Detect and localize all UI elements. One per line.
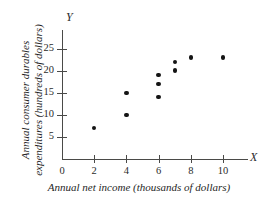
y-axis-title: Annual consumer durables expenditures (h…	[19, 15, 45, 185]
y-tick	[57, 137, 67, 138]
data-point	[156, 95, 160, 99]
x-tick-label: 4	[116, 165, 136, 176]
y-tick	[57, 93, 67, 94]
x-tick-label: 0	[52, 165, 72, 176]
x-tick-label: 8	[181, 165, 201, 176]
data-point	[173, 68, 177, 72]
data-point	[156, 82, 160, 86]
data-point	[189, 55, 193, 59]
data-point	[156, 73, 160, 77]
y-tick	[57, 49, 67, 50]
data-point	[221, 55, 225, 59]
x-axis-letter: X	[250, 150, 257, 165]
x-tick	[191, 155, 192, 163]
data-point	[124, 113, 128, 117]
x-tick-label: 2	[84, 165, 104, 176]
x-tick	[223, 155, 224, 163]
y-tick	[57, 115, 67, 116]
x-tick	[159, 155, 160, 163]
data-point	[173, 60, 177, 64]
x-tick	[126, 155, 127, 163]
scatter-plot-figure: Y X 510152025 0246810 Annual net income …	[0, 0, 278, 205]
x-tick-label: 6	[149, 165, 169, 176]
data-point	[92, 126, 96, 130]
x-axis-line	[62, 159, 248, 160]
y-axis-line	[62, 30, 63, 160]
y-axis-letter: Y	[66, 10, 73, 25]
data-point	[124, 91, 128, 95]
x-tick-label: 10	[213, 165, 233, 176]
x-tick	[94, 155, 95, 163]
y-tick	[57, 71, 67, 72]
